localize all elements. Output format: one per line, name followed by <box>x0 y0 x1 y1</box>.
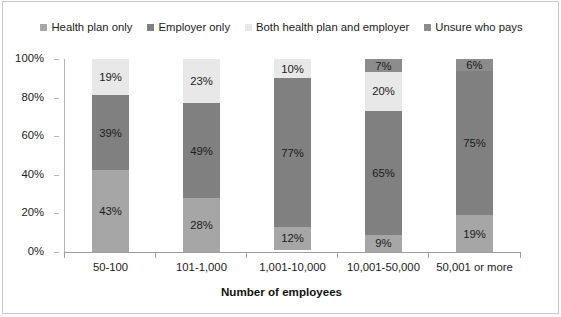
segment-both[interactable]: 19% <box>92 59 129 95</box>
segment-value-health-plan-only: 19% <box>463 228 486 240</box>
segment-value-both: 19% <box>99 71 122 83</box>
stacked-bar-101-1000[interactable]: 23% 49% 28% <box>183 59 220 252</box>
segment-health-plan-only[interactable]: 19% <box>456 215 493 252</box>
segment-both[interactable]: 20% <box>365 72 402 110</box>
legend-swatch-employer-only <box>147 24 154 31</box>
y-axis-label-0: 0% <box>28 245 44 257</box>
chart-legend: Health plan only Employer only Both heal… <box>3 21 559 33</box>
segment-health-plan-only[interactable]: 9% <box>365 235 402 252</box>
segment-value-health-plan-only: 28% <box>190 219 213 231</box>
segment-unsure[interactable]: 6% <box>456 59 493 71</box>
x-axis-label-1001-10000: 1,001-10,000 <box>247 261 338 273</box>
legend-label-unsure: Unsure who pays <box>435 21 522 33</box>
segment-employer-only[interactable]: 39% <box>92 95 129 170</box>
legend-item-both[interactable]: Both health plan and employer <box>245 21 409 33</box>
legend-item-health-plan-only[interactable]: Health plan only <box>40 21 132 33</box>
segment-value-employer-only: 77% <box>281 147 304 159</box>
x-axis-line <box>64 252 521 253</box>
segment-employer-only[interactable]: 77% <box>274 78 311 227</box>
x-axis-label-101-1000: 101-1,000 <box>156 261 247 273</box>
stacked-bar-50-100[interactable]: 19% 39% 43% <box>92 59 129 252</box>
y-axis-label-60: 60% <box>21 129 44 141</box>
y-axis-label-100: 100% <box>15 52 44 64</box>
legend-swatch-unsure <box>424 24 431 31</box>
legend-label-health-plan-only: Health plan only <box>51 21 132 33</box>
segment-unsure[interactable]: 7% <box>365 59 402 72</box>
segment-value-unsure: 6% <box>466 59 482 71</box>
x-axis-label-50-100: 50-100 <box>65 261 156 273</box>
x-axis-label-50001-or-more: 50,001 or more <box>429 261 520 273</box>
legend-label-employer-only: Employer only <box>158 21 230 33</box>
bar-slot-50001-or-more: 6% 75% 19% <box>429 59 520 252</box>
segment-value-health-plan-only: 9% <box>375 237 391 249</box>
legend-swatch-both <box>245 24 252 31</box>
bar-group: 19% 39% 43% 23% <box>65 59 520 252</box>
bar-slot-1001-10000: 10% 77% 12% <box>247 59 338 252</box>
chart-container: Health plan only Employer only Both heal… <box>2 1 559 314</box>
segment-employer-only[interactable]: 75% <box>456 71 493 216</box>
segment-value-employer-only: 49% <box>190 145 213 157</box>
bar-slot-101-1000: 23% 49% 28% <box>156 59 247 252</box>
stacked-bar-10001-50000[interactable]: 7% 20% 65% 9% <box>365 59 402 252</box>
x-axis-title: Number of employees <box>3 285 559 298</box>
bar-slot-50-100: 19% 39% 43% <box>65 59 156 252</box>
y-axis-label-20: 20% <box>21 206 44 218</box>
segment-value-unsure: 7% <box>375 60 391 72</box>
segment-value-both: 23% <box>190 75 213 87</box>
x-axis-category-labels: 50-100 101-1,000 1,001-10,000 10,001-50,… <box>65 261 520 273</box>
y-axis-label-40: 40% <box>21 168 44 180</box>
segment-both[interactable]: 23% <box>183 59 220 103</box>
stacked-bar-1001-10000[interactable]: 10% 77% 12% <box>274 59 311 252</box>
y-axis-label-80: 80% <box>21 91 44 103</box>
segment-value-employer-only: 39% <box>99 127 122 139</box>
plot-area: 19% 39% 43% 23% <box>65 59 520 252</box>
legend-item-employer-only[interactable]: Employer only <box>147 21 230 33</box>
stacked-bar-50001-or-more[interactable]: 6% 75% 19% <box>456 59 493 252</box>
segment-both[interactable]: 10% <box>274 59 311 78</box>
segment-health-plan-only[interactable]: 28% <box>183 198 220 252</box>
segment-value-employer-only: 75% <box>463 137 486 149</box>
segment-value-both: 10% <box>281 63 304 75</box>
segment-value-employer-only: 65% <box>372 167 395 179</box>
segment-employer-only[interactable]: 65% <box>365 111 402 235</box>
legend-label-both: Both health plan and employer <box>256 21 409 33</box>
segment-health-plan-only[interactable]: 43% <box>92 170 129 252</box>
segment-value-health-plan-only: 43% <box>99 205 122 217</box>
segment-value-both: 20% <box>372 85 395 97</box>
bar-slot-10001-50000: 7% 20% 65% 9% <box>338 59 429 252</box>
legend-swatch-health-plan-only <box>40 24 47 31</box>
segment-health-plan-only[interactable]: 12% <box>274 227 311 250</box>
x-axis-label-10001-50000: 10,001-50,000 <box>338 261 429 273</box>
legend-item-unsure[interactable]: Unsure who pays <box>424 21 522 33</box>
segment-value-health-plan-only: 12% <box>281 232 304 244</box>
segment-employer-only[interactable]: 49% <box>183 103 220 198</box>
